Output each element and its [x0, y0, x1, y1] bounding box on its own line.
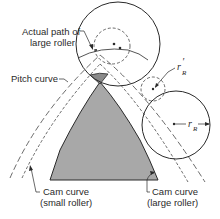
roller-center-dot [113, 43, 116, 46]
actual-path-large-roller [78, 49, 148, 60]
arrowhead-icon [155, 83, 159, 88]
cam-body-shaded [50, 82, 158, 180]
label-r-large-sub: R [192, 125, 198, 133]
leader-r-prime [155, 68, 175, 87]
cam-diagram: Actual path of large roller Pitch curve … [0, 0, 220, 219]
label-r-small-prime: ′ [182, 56, 185, 67]
label-cam-large-1: Cam curve [152, 186, 198, 197]
large-roller-top [76, 2, 160, 86]
label-r-large-roller: r [188, 118, 192, 129]
arrowhead-icon [29, 165, 33, 171]
roller-center-dot [95, 49, 97, 51]
leader-cam-small [31, 168, 40, 192]
label-actual-path-2: large roller [30, 37, 75, 48]
small-roller-top [94, 28, 130, 64]
cusp-undercut [90, 73, 108, 84]
arrowhead-icon [205, 122, 210, 126]
label-cam-small-2: (small roller) [40, 197, 92, 208]
roller-center-dot [152, 88, 154, 90]
large-roller-right [142, 91, 210, 159]
leader-pitch-curve [59, 79, 68, 82]
arrowhead-icon [89, 44, 93, 50]
roller-center-dot [119, 47, 122, 50]
label-r-small-roller: r [177, 61, 181, 72]
label-cam-large-2: (large roller) [147, 197, 198, 208]
label-pitch-curve: Pitch curve [11, 73, 58, 84]
label-actual-path-1: Actual path of [22, 26, 80, 37]
label-cam-small-1: Cam curve [43, 186, 89, 197]
diagram-canvas: Actual path of large roller Pitch curve … [0, 0, 220, 219]
label-r-small-sub: R [181, 69, 187, 77]
